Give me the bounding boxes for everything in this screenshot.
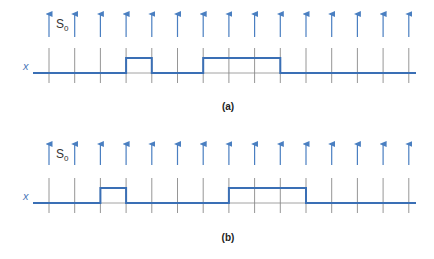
sample-arrows: [49, 14, 409, 37]
sample-label-s0: S0: [56, 147, 69, 163]
sample-arrows: [49, 144, 409, 165]
signal-label-x: x: [22, 60, 29, 72]
signal-waveform: [33, 188, 416, 203]
signal-waveform: [33, 58, 416, 73]
sample-label-s0: S0: [56, 17, 69, 33]
tick-marks: [49, 48, 409, 83]
panel-b: x S0 (b): [22, 144, 416, 243]
sampling-timing-diagram: x S0 (a) x S0 (b): [0, 0, 434, 259]
caption-b: (b): [222, 232, 235, 243]
caption-a: (a): [222, 101, 234, 112]
panel-a: x S0 (a): [22, 14, 416, 112]
signal-label-x: x: [22, 190, 29, 202]
